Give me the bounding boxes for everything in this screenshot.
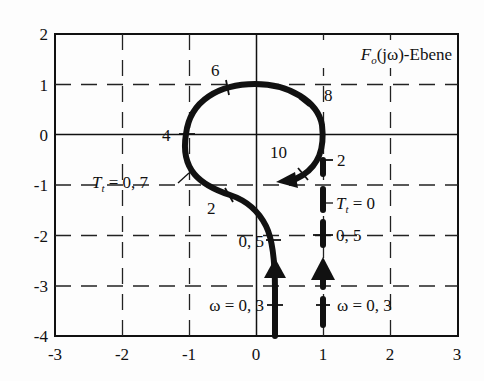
svg-text:2: 2	[386, 345, 395, 364]
svg-text:2: 2	[40, 25, 49, 44]
frequency-ticks	[179, 80, 309, 305]
x-tick-labels: -3 -2 -1 0 1 2 3	[48, 345, 461, 364]
omega-label-0-5-tt0: 0, 5	[336, 226, 362, 245]
svg-text:0: 0	[40, 126, 49, 145]
arrow-icon	[311, 257, 335, 280]
svg-text:-3: -3	[48, 345, 62, 364]
svg-text:-4: -4	[34, 327, 49, 346]
svg-text:1: 1	[319, 345, 328, 364]
svg-text:-1: -1	[182, 345, 196, 364]
y-tick-labels: 2 1 0 -1 -2 -3 -4	[34, 25, 49, 346]
omega-label-0-3-tt0: ω = 0, 3	[337, 296, 392, 315]
svg-text:0: 0	[252, 345, 261, 364]
omega-label-6: 6	[211, 61, 220, 80]
nyquist-plot: 2 1 0 -1 -2 -3 -4 -3 -2 -1 0 1 2 3 Fo(jω…	[0, 0, 484, 381]
svg-text:-1: -1	[34, 176, 48, 195]
tt-0-label: Tt = 0	[336, 194, 375, 215]
omega-label-4: 4	[162, 126, 171, 145]
arrow-icon	[276, 172, 298, 188]
svg-text:-2: -2	[115, 345, 129, 364]
arrow-icon	[264, 258, 286, 278]
svg-text:1: 1	[40, 76, 49, 95]
omega-label-2-tt0: 2	[337, 151, 346, 170]
svg-text:-3: -3	[34, 277, 48, 296]
omega-label-10: 10	[270, 143, 287, 162]
svg-text:3: 3	[453, 345, 462, 364]
omega-label-8: 8	[324, 86, 333, 105]
omega-label-0-5: 0, 5	[239, 232, 265, 251]
tt-0-7-label: Tt = 0, 7	[92, 173, 149, 194]
svg-text:-2: -2	[34, 227, 48, 246]
omega-label-0-3: ω = 0, 3	[209, 296, 264, 315]
omega-label-2: 2	[207, 199, 216, 218]
